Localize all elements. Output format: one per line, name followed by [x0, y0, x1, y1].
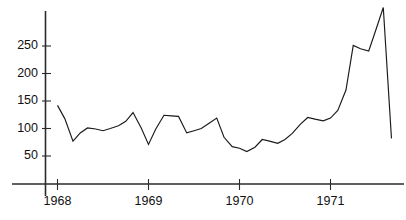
y-axis-ticks — [42, 46, 51, 156]
chart-canvas: 250 200 150 100 50 1968 1969 1970 1971 — [0, 0, 406, 220]
x-tick-label-1968: 1968 — [44, 194, 72, 208]
x-tick-label-1969: 1969 — [135, 194, 163, 208]
y-tick-label-150: 150 — [17, 93, 38, 107]
x-axis-tick-labels: 1968 1969 1970 1971 — [44, 194, 345, 208]
x-tick-label-1970: 1970 — [226, 194, 254, 208]
x-tick-label-1971: 1971 — [317, 194, 345, 208]
line-chart: 250 200 150 100 50 1968 1969 1970 1971 — [0, 0, 406, 220]
y-axis-tick-labels: 250 200 150 100 50 — [17, 38, 38, 162]
y-tick-label-50: 50 — [24, 148, 38, 162]
data-series-line — [58, 8, 392, 152]
y-tick-label-250: 250 — [17, 38, 38, 52]
y-tick-label-100: 100 — [17, 121, 38, 135]
y-tick-label-200: 200 — [17, 66, 38, 80]
